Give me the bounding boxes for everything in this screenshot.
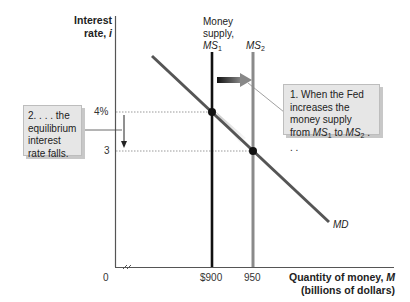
note1-ms1: MS (313, 127, 328, 138)
note1-to: to (332, 127, 343, 138)
y-axis-label-line2: rate, i (14, 27, 112, 40)
ms2-prefix: MS (246, 40, 261, 51)
annotation-note-1: 1. When the Fed increases the money supp… (283, 84, 380, 135)
x-axis-label-line2: (billions of dollars) (250, 284, 395, 297)
tick-y-4: 4% (94, 106, 108, 117)
y-axis-label: Interest rate, i (14, 14, 112, 40)
equilibrium-point-1 (208, 108, 216, 116)
ms1-subscript: 1 (218, 45, 222, 52)
ms1-label-symbol: MS1 (203, 40, 234, 55)
annotation-note-2: 2. . . . the equilibrium interest rate f… (23, 105, 82, 156)
ms2-label: MS2 (246, 40, 265, 55)
ms2-subscript: 2 (261, 45, 265, 52)
note1-ms2: MS (346, 127, 361, 138)
equilibrium-point-2 (249, 147, 257, 155)
x-axis-variable: M (386, 271, 395, 283)
tick-zero: 0 (103, 272, 109, 283)
tick-y-3: 3 (104, 145, 110, 156)
tick-x-900: $900 (200, 272, 222, 283)
right-arrow-icon (217, 73, 252, 87)
x-axis-label: Quantity of money, M (billions of dollar… (250, 271, 395, 297)
ms1-prefix: MS (203, 40, 218, 51)
y-axis-label-text: rate, (84, 27, 109, 39)
md-label: MD (333, 219, 349, 231)
x-axis-label-line1: Quantity of money, M (250, 271, 395, 284)
ms1-label: Money supply, MS1 (203, 16, 234, 55)
ms1-label-line2: supply, (203, 28, 234, 40)
x-axis-label-text: Quantity of money, (289, 271, 386, 283)
down-arrow-icon (121, 115, 127, 148)
y-axis-variable: i (109, 27, 112, 39)
y-axis-label-line1: Interest (14, 14, 112, 27)
ms1-label-line1: Money (203, 16, 234, 28)
tick-x-950: 950 (244, 272, 261, 283)
